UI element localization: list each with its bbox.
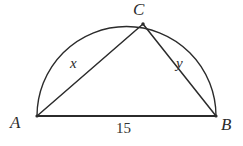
vertex-label-b: B <box>221 116 231 133</box>
base-length-label: 15 <box>116 121 131 136</box>
segment-ac-side-x <box>37 24 143 116</box>
geometry-figure: A B C x y 15 <box>0 0 243 146</box>
semicircle-arc <box>37 26 216 116</box>
vertex-label-c: C <box>133 1 144 18</box>
side-label-y: y <box>176 56 183 71</box>
vertex-label-a: A <box>10 114 20 131</box>
vertex-point-b <box>214 114 217 117</box>
vertex-point-c <box>141 22 144 25</box>
vertex-point-a <box>35 114 38 117</box>
side-label-x: x <box>70 56 77 71</box>
